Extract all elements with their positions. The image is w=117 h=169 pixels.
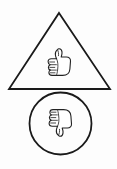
figure-svg [0,0,117,169]
thumbs-up-icon[interactable] [48,49,70,76]
figure-canvas [0,0,117,169]
thumbs-down-icon[interactable] [49,110,71,137]
